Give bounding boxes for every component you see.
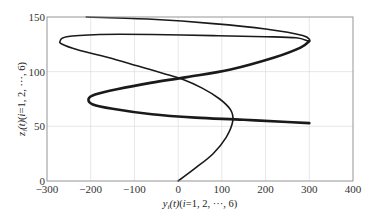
x-axis-ticks: −300−200−1000100200300400 [36,183,362,195]
x-axis-label: yi(t)(i=1, 2, ···, 6) [162,198,238,211]
x-tick-label: −200 [79,183,102,195]
y-axis-ticks: 050100150 [29,11,46,187]
y-axis-label: zi(t)(i=1, 2, ···, 6) [16,62,29,137]
y-tick-label: 50 [34,120,46,132]
x-tick-label: −100 [123,183,146,195]
y-tick-label: 0 [40,175,46,187]
x-tick-label: 100 [214,183,231,195]
y-tick-label: 150 [29,11,46,23]
x-tick-label: 0 [175,183,181,195]
x-tick-label: 300 [301,183,318,195]
y-tick-label: 100 [29,66,46,78]
x-tick-label: 200 [257,183,274,195]
x-tick-label: 400 [345,183,362,195]
trajectory-curve [60,17,310,181]
trajectory-curve [88,41,309,123]
plot-curves [60,17,310,181]
trajectory-chart: −300−200−1000100200300400 050100150 yi(t… [0,0,375,216]
